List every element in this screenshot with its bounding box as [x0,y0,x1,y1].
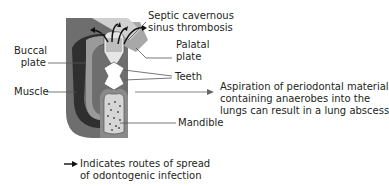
label-buccal-plate: Buccal plate [14,45,46,69]
label-line: sinus thrombosis [148,22,234,34]
label-line: plate [176,51,209,63]
palatal-leader [136,48,172,58]
label-muscle: Muscle [14,86,49,98]
teeth-leader-2 [124,78,172,80]
label-line: lungs can result in a lung abscess [220,105,389,117]
label-septic-cavernous-sinus-thrombosis: Septic cavernous sinus thrombosis [148,10,234,34]
arrow-right-icon [72,161,78,167]
label-line: plate [14,57,46,69]
label-line: containing anaerobes into the [220,93,389,105]
label-line: Buccal [14,45,46,57]
teeth-leader-1 [124,70,172,76]
mandible-body [104,94,124,134]
label-palatal-plate: Palatal plate [176,39,209,63]
label-mandible: Mandible [178,117,224,129]
aspiration-arrowhead [207,89,214,95]
legend-text: Indicates routes of spread of odontogeni… [80,158,210,182]
legend-line: of odontogenic infection [80,170,210,182]
legend-line: Indicates routes of spread [80,158,210,170]
label-aspiration: Aspiration of periodontal material conta… [220,81,389,117]
label-line: Septic cavernous [148,10,234,22]
label-line: Palatal [176,39,209,51]
label-teeth: Teeth [175,71,202,83]
label-line: Aspiration of periodontal material [220,81,389,93]
